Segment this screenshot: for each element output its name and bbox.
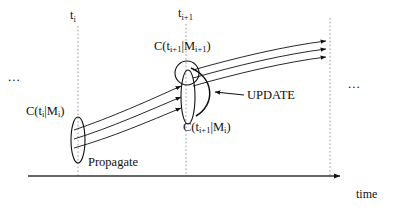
update-arrow xyxy=(215,92,244,95)
propagation-curves-right xyxy=(193,41,326,86)
covariance-label-c-tip1-mip1: C(ti+1|Mi+1) xyxy=(154,40,211,54)
time-tick-label-ti: ti xyxy=(70,9,76,23)
diagram-canvas: ti ti+1 C(ti|Mi) C(ti+1|Mi+1) C(ti+1|Mi)… xyxy=(0,0,396,210)
uncertainty-ellipses xyxy=(71,61,199,163)
update-annotation-label: UPDATE xyxy=(247,89,295,102)
covariance-label-c-ti-mi: C(ti|Mi) xyxy=(26,105,65,119)
ellipse-propagated xyxy=(181,70,195,124)
time-axis-label: time xyxy=(356,188,377,200)
time-tick-label-ti-plus-1: ti+1 xyxy=(178,7,193,21)
ellipsis-left: ... xyxy=(8,70,21,83)
covariance-label-c-tip1-mi: C(ti+1|Mi) xyxy=(183,121,231,135)
propagation-curves-left xyxy=(74,86,181,148)
ellipse-updated xyxy=(175,61,199,85)
ellipsis-right: ... xyxy=(348,77,361,90)
propagate-annotation-label: Propagate xyxy=(88,156,138,169)
